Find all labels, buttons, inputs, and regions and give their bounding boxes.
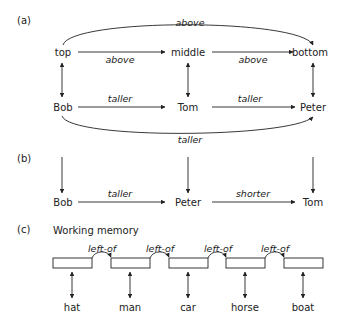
panel-b-label: (b) bbox=[17, 153, 31, 164]
relation-top-1: above bbox=[105, 54, 134, 65]
relation-top-2: above bbox=[238, 54, 267, 65]
memory-slot-2 bbox=[111, 258, 150, 268]
item-man: man bbox=[119, 302, 141, 313]
node-bottom: bottom bbox=[292, 47, 328, 58]
node-middle: middle bbox=[171, 47, 205, 58]
item-horse: horse bbox=[231, 302, 259, 313]
b-node-tom: Tom bbox=[302, 197, 323, 208]
panel-c-label: (c) bbox=[17, 224, 30, 235]
left-of-label-2: left-of bbox=[146, 243, 176, 254]
relation-bottom-2: taller bbox=[238, 93, 264, 104]
memory-slot-1 bbox=[53, 258, 92, 268]
memory-slot-5 bbox=[284, 258, 323, 268]
node-peter: Peter bbox=[300, 102, 327, 113]
relation-top-arc: above bbox=[175, 17, 204, 28]
b-relation-2: shorter bbox=[236, 188, 271, 199]
memory-slots bbox=[53, 258, 323, 268]
memory-slot-4 bbox=[226, 258, 265, 268]
left-of-label-4: left-of bbox=[261, 243, 291, 254]
working-memory-title: Working memory bbox=[53, 225, 139, 236]
b-relation-1: taller bbox=[108, 188, 134, 199]
item-boat: boat bbox=[292, 302, 315, 313]
b-node-bob: Bob bbox=[53, 197, 72, 208]
diagram-canvas: (a) above top middle bottom above above … bbox=[0, 0, 344, 326]
node-top: top bbox=[55, 47, 71, 58]
b-node-peter: Peter bbox=[175, 197, 202, 208]
item-hat: hat bbox=[64, 302, 80, 313]
left-of-label-1: left-of bbox=[88, 243, 118, 254]
arc-arrow-bob-peter bbox=[62, 116, 313, 133]
relation-bottom-1: taller bbox=[108, 93, 134, 104]
node-tom: Tom bbox=[177, 102, 198, 113]
node-bob: Bob bbox=[53, 102, 72, 113]
panel-a-label: (a) bbox=[17, 15, 31, 26]
left-of-label-3: left-of bbox=[204, 243, 234, 254]
item-car: car bbox=[180, 302, 197, 313]
relation-bottom-arc: taller bbox=[178, 134, 204, 145]
memory-slot-3 bbox=[169, 258, 208, 268]
